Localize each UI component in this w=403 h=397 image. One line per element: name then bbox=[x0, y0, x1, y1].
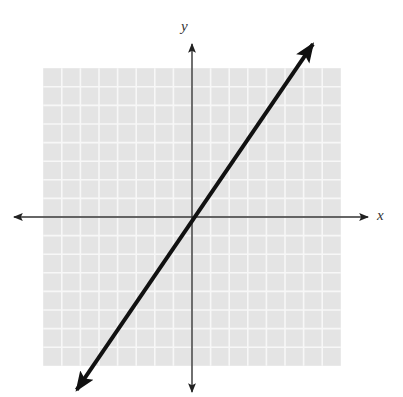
y-axis-label: y bbox=[181, 18, 188, 35]
coordinate-plane bbox=[0, 0, 403, 397]
x-axis-label: x bbox=[377, 207, 384, 224]
